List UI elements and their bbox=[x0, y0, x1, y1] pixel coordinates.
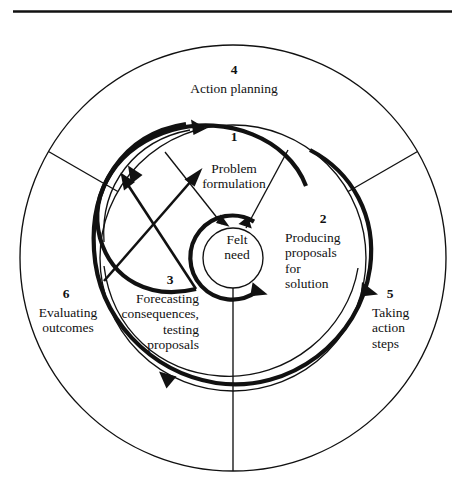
figure-root: 4 Action planning 1 Problem formulation … bbox=[0, 0, 464, 486]
divider-upper-right bbox=[348, 152, 417, 192]
core-arc-arrowhead bbox=[250, 282, 267, 296]
spiral-companion-arc bbox=[104, 130, 190, 242]
diagonal-arrow-line-to-problem bbox=[104, 180, 192, 281]
segment-6-number: 6 bbox=[48, 286, 84, 301]
segment-5-number: 5 bbox=[372, 286, 408, 301]
segment-1-number: 1 bbox=[190, 129, 278, 144]
segment-3-number: 3 bbox=[153, 272, 187, 287]
segment-2-number: 2 bbox=[283, 211, 363, 226]
core-label: Felt need bbox=[204, 232, 270, 263]
segment-6-label: Evaluating outcomes bbox=[22, 305, 114, 336]
segment-5-label: Taking action steps bbox=[372, 305, 434, 351]
segment-4-number: 4 bbox=[186, 62, 282, 77]
segment-2-label: Producing proposals for solution bbox=[285, 230, 371, 292]
segment-3-label: Forecasting consequences, testing propos… bbox=[105, 291, 199, 353]
divider-upper-left bbox=[49, 152, 118, 192]
heavy-spiral-lowerleft-arrowhead bbox=[159, 372, 177, 389]
segment-1-label: Problem formulation bbox=[186, 161, 282, 192]
segment-4-label: Action planning bbox=[162, 81, 306, 96]
